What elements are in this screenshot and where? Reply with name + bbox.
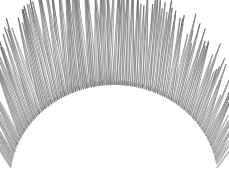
figure-root bbox=[0, 0, 229, 184]
radial-needle-plot-canvas bbox=[0, 0, 229, 184]
